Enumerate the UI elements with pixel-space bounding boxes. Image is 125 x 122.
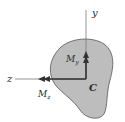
y-axis-label: y xyxy=(91,7,98,18)
moment-y-subscript: y xyxy=(74,58,79,66)
moment-z-label: Mz xyxy=(37,89,51,100)
moment-z-subscript: z xyxy=(46,93,51,100)
cross-section-moment-diagram: y z My Mz C xyxy=(0,0,125,122)
centroid-label: C xyxy=(89,82,97,93)
z-axis-label: z xyxy=(6,73,13,84)
